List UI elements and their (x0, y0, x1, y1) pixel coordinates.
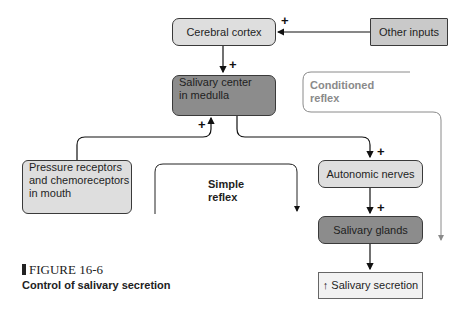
cerebral-cortex-node: Cerebral cortex (172, 18, 276, 46)
plus-sign-other-inputs: + (281, 14, 289, 27)
salivary-glands-label: Salivary glands (333, 224, 408, 237)
autonomic-nerves-label: Autonomic nerves (326, 168, 414, 181)
other-inputs-node: Other inputs (370, 18, 448, 46)
figure-caption: Control of salivary secretion (22, 279, 171, 291)
conditioned-reflex-label: Conditioned reflex (310, 79, 374, 105)
salivary-secretion-label: Salivary secretion (331, 279, 418, 292)
pressure-receptors-node: Pressure receptors and chemoreceptors in… (22, 160, 132, 214)
salivary-glands-node: Salivary glands (318, 216, 423, 244)
salivary-center-node: Salivary center in medulla (172, 75, 276, 116)
conditioned-reflex-line1: Conditioned (310, 79, 374, 92)
receptors-label-line3: in mouth (29, 187, 71, 200)
other-inputs-label: Other inputs (379, 26, 439, 39)
salivary-center-label-line2: in medulla (179, 89, 229, 102)
simple-reflex-line2: reflex (208, 191, 244, 204)
autonomic-nerves-node: Autonomic nerves (318, 160, 423, 188)
salivary-center-label-line1: Salivary center (179, 76, 252, 89)
conditioned-reflex-line2: reflex (310, 92, 374, 105)
plus-sign-cortex: + (229, 58, 237, 71)
salivary-secretion-node: ↑ Salivary secretion (318, 272, 423, 299)
receptors-label-line2: and chemoreceptors (29, 174, 129, 187)
cerebral-cortex-label: Cerebral cortex (186, 26, 261, 39)
simple-reflex-line1: Simple (208, 178, 244, 191)
increase-arrow-icon: ↑ (323, 279, 329, 292)
receptors-label-line1: Pressure receptors (29, 161, 122, 174)
plus-sign-receptors: + (198, 118, 206, 131)
figure-number-text: FIGURE 16-6 (29, 262, 103, 277)
simple-reflex-label: Simple reflex (208, 178, 244, 204)
plus-sign-glands: + (377, 201, 385, 214)
plus-sign-nerves: + (377, 145, 385, 158)
figure-number: FIGURE 16-6 (22, 262, 103, 278)
figure-marker-icon (22, 264, 26, 275)
